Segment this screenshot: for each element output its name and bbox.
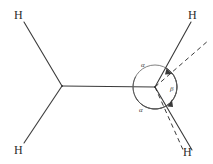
carbon-right-vertex — [154, 86, 156, 88]
atom-label-h-bottom-right: H — [183, 146, 192, 158]
reference-line-group — [155, 40, 209, 152]
atom-label-h-bottom-left: H — [14, 144, 23, 156]
angle-label-alpha-upper: α — [141, 62, 145, 69]
dashed-reference-upper-line — [155, 40, 209, 87]
bond-h-top-left — [24, 22, 62, 86]
atom-label-h-top-left: H — [14, 9, 23, 21]
molecular-conformation-figure: H H H H α α β — [0, 0, 213, 164]
angle-label-beta: β — [170, 86, 174, 93]
dashed-reference-lower-line — [155, 87, 184, 152]
angle-label-alpha-lower: α — [139, 107, 143, 114]
bond-central — [62, 86, 155, 87]
bond-h-top-right — [155, 22, 191, 87]
bond-h-bottom-left — [24, 86, 62, 143]
bond-group — [24, 22, 192, 150]
atom-label-h-top-right: H — [188, 9, 197, 21]
diagram-canvas — [0, 0, 213, 164]
bond-h-bottom-right — [155, 87, 192, 150]
carbon-left-vertex — [61, 85, 63, 87]
